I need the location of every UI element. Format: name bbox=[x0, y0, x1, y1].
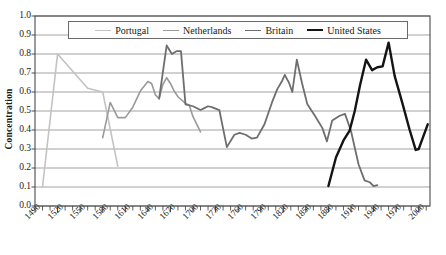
legend-label: Portugal bbox=[115, 25, 149, 36]
legend-line-swatch bbox=[245, 30, 261, 31]
legend-item-britain[interactable]: Britain bbox=[238, 25, 300, 36]
data-series-group bbox=[43, 43, 428, 187]
grid-lines bbox=[35, 16, 430, 206]
legend-item-portugal[interactable]: Portugal bbox=[88, 25, 156, 36]
legend-line-swatch bbox=[307, 29, 323, 31]
legend-item-united-states[interactable]: United States bbox=[300, 25, 388, 36]
chart-legend: PortugalNetherlandsBritainUnited States bbox=[68, 21, 408, 39]
series-line-netherlands bbox=[103, 78, 201, 138]
legend-item-netherlands[interactable]: Netherlands bbox=[156, 25, 238, 36]
legend-label: Netherlands bbox=[183, 25, 231, 36]
legend-line-swatch bbox=[163, 30, 179, 31]
legend-label: Britain bbox=[265, 25, 293, 36]
x-axis-ticks bbox=[35, 206, 426, 212]
legend-line-swatch bbox=[95, 30, 111, 31]
legend-label: United States bbox=[327, 25, 381, 36]
chart-container: Concentration 0.00.10.20.30.40.50.60.70.… bbox=[0, 0, 446, 255]
